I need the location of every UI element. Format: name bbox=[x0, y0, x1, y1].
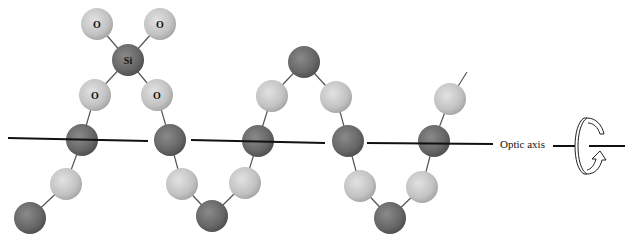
silica-helix-diagram: O O Si O O Optic axis bbox=[0, 0, 632, 246]
oxygen-atom bbox=[320, 81, 352, 113]
optic-axis-label: Optic axis bbox=[500, 138, 545, 150]
oxygen-label: O bbox=[153, 90, 161, 101]
oxygen-atom bbox=[166, 168, 198, 200]
oxygen-atom bbox=[229, 167, 261, 199]
atoms bbox=[14, 8, 466, 234]
oxygen-atom bbox=[406, 171, 438, 203]
silicon-atom bbox=[418, 125, 450, 157]
silicon-atom bbox=[154, 124, 186, 156]
oxygen-atom bbox=[50, 168, 82, 200]
oxygen-atom bbox=[434, 83, 466, 115]
oxygen-atom bbox=[344, 170, 376, 202]
silicon-atom bbox=[374, 202, 406, 234]
oxygen-label: O bbox=[156, 19, 164, 30]
silicon-atom bbox=[332, 125, 364, 157]
oxygen-label: O bbox=[91, 90, 99, 101]
silicon-atom bbox=[14, 202, 46, 234]
silicon-atom bbox=[288, 46, 320, 78]
silicon-label: Si bbox=[124, 55, 133, 66]
oxygen-atom bbox=[256, 80, 288, 112]
oxygen-label: O bbox=[93, 19, 101, 30]
silicon-atom bbox=[196, 200, 228, 232]
